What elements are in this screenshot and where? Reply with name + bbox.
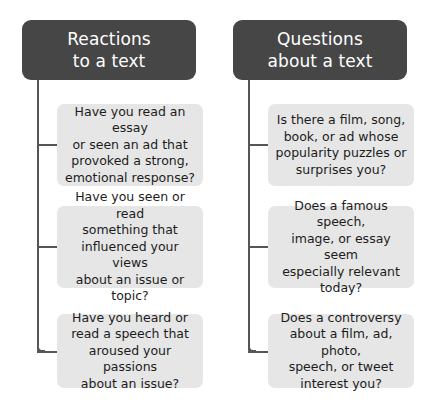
leaf-node-3[interactable]: Does a controversy about a film, ad, pho… — [268, 314, 414, 388]
column-header-label: Reactions to a text — [67, 28, 151, 72]
leaf-node-2[interactable]: Have you seen or read something that inf… — [57, 206, 203, 288]
leaf-node-label: Is there a film, song, book, or ad whose… — [276, 112, 407, 178]
column-header-label: Questions about a text — [267, 28, 372, 72]
leaf-node-1[interactable]: Have you read an essay or seen an ad tha… — [57, 104, 203, 186]
leaf-node-label: Have you heard or read a speech that aro… — [64, 310, 196, 393]
connector-branch-1 — [248, 144, 269, 146]
leaf-node-label: Have you read an essay or seen an ad tha… — [64, 104, 196, 187]
column-header-questions[interactable]: Questions about a text — [233, 20, 407, 80]
mindmap-diagram: Reactions to a text Have you read an ess… — [0, 0, 435, 410]
connector-branch-1 — [37, 144, 58, 146]
column-header-reactions[interactable]: Reactions to a text — [22, 20, 196, 80]
column-questions: Questions about a text Is there a film, … — [226, 0, 426, 410]
leaf-node-label: Does a controversy about a film, ad, pho… — [275, 310, 407, 393]
leaf-node-1[interactable]: Is there a film, song, book, or ad whose… — [268, 104, 414, 186]
connector-trunk — [248, 80, 250, 352]
connector-trunk — [37, 80, 39, 352]
leaf-node-2[interactable]: Does a famous speech, image, or essay se… — [268, 206, 414, 288]
connector-branch-3 — [248, 351, 269, 353]
leaf-node-label: Have you seen or read something that inf… — [64, 189, 196, 305]
connector-branch-2 — [248, 246, 269, 248]
leaf-node-3[interactable]: Have you heard or read a speech that aro… — [57, 314, 203, 388]
connector-branch-3 — [37, 351, 58, 353]
column-reactions: Reactions to a text Have you read an ess… — [15, 0, 215, 410]
leaf-node-label: Does a famous speech, image, or essay se… — [275, 198, 407, 297]
connector-branch-2 — [37, 246, 58, 248]
